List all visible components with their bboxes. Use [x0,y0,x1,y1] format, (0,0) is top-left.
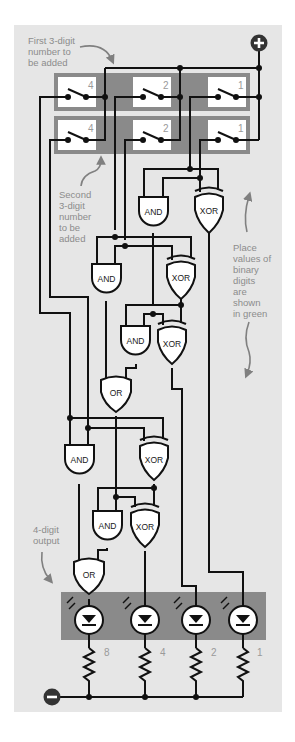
svg-text:number to: number to [28,46,71,57]
svg-text:First 3-digit: First 3-digit [28,35,75,46]
and-gate-3: AND [121,326,150,355]
adder-circuit-diagram: 4 2 1 4 2 1 [0,0,295,742]
led-place-value: 8 [104,647,110,658]
svg-text:4-digit: 4-digit [33,524,59,535]
switch-place-value: 1 [238,123,244,134]
svg-text:Place: Place [233,242,257,253]
gate-label: XOR [200,206,218,216]
gate-label: OR [110,388,123,398]
switch-place-value: 4 [88,123,94,134]
and-gate-5: AND [93,511,122,539]
led-place-value: 2 [211,647,217,658]
switch-place-value: 2 [163,123,169,134]
svg-text:to be: to be [59,222,80,233]
svg-text:are: are [233,286,247,297]
svg-text:3-digit: 3-digit [59,200,85,211]
gate-label: XOR [172,273,190,283]
svg-text:added: added [59,233,85,244]
svg-text:values of: values of [233,253,271,264]
svg-text:output: output [33,535,60,546]
gate-label: OR [83,570,96,580]
svg-text:Second: Second [59,189,91,200]
svg-text:number: number [59,211,91,222]
and-gate-4: AND [65,445,94,474]
switch-place-value: 1 [238,80,244,91]
svg-text:digits: digits [233,275,255,286]
gate-label: XOR [145,455,163,465]
positive-terminal [251,35,268,52]
gate-label: AND [99,521,117,531]
switch-place-value: 2 [163,80,169,91]
gate-label: AND [127,336,145,346]
gate-label: AND [71,455,89,465]
led-place-value: 1 [257,647,263,658]
and-gate-2: AND [92,264,121,293]
svg-text:be added: be added [28,57,68,68]
gate-label: XOR [136,522,154,532]
negative-terminal [44,689,61,706]
gate-label: AND [145,207,163,217]
svg-text:shown: shown [233,297,260,308]
svg-text:binary: binary [233,264,259,275]
and-gate-1: AND [139,197,168,226]
gate-label: AND [98,274,116,284]
led-place-value: 4 [160,647,166,658]
svg-text:in green: in green [233,308,267,319]
switch-place-value: 4 [88,80,94,91]
gate-label: XOR [163,339,181,349]
